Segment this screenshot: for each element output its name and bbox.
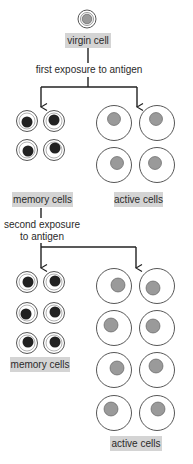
memory-cells-label-2: memory cells [10, 357, 70, 372]
memory-cells-group-2 [17, 272, 65, 354]
virgin-cell-label: virgin cell [65, 33, 111, 48]
first-exposure-connector [41, 48, 137, 107]
active-cells-label-1: active cells [114, 192, 163, 207]
memory-cells-group-1 [17, 111, 65, 161]
first-exposure-text: first exposure to antigen [34, 64, 144, 75]
active-cells-label-2: active cells [110, 436, 162, 451]
memory-cells-label-1: memory cells [12, 192, 73, 207]
virgin-cell [78, 10, 96, 28]
active-cells-group-1 [97, 106, 175, 183]
second-exposure-text-line1: second exposure [2, 219, 82, 230]
second-exposure-text-line2: to antigen [2, 231, 82, 242]
active-cells-group-2 [97, 269, 175, 431]
